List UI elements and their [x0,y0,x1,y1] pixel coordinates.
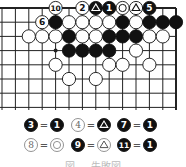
black-stone [49,16,62,29]
black-stone: 1 [144,119,157,132]
white-stone [143,30,156,43]
diagram-caption: 図 ― 失敗図 [0,158,186,167]
black-stone: 5 [143,1,156,14]
legend-item: 4= [72,119,111,132]
white-stone [103,58,116,71]
white-stone [62,72,75,85]
legend-item: 11=1 [118,139,157,152]
black-stone: 7 [118,119,131,132]
star-point [54,49,58,53]
go-board: 102156 [0,0,186,115]
black-stone [116,16,129,29]
black-stone: 3 [25,119,38,132]
move-number: 7 [121,120,127,130]
black-stone: 1 [144,139,157,152]
equals-sign: = [87,120,95,131]
black-stone [62,30,75,43]
black-stone: 11 [118,139,131,152]
white-stone [129,1,142,14]
white-stone [62,16,75,29]
equals-sign: = [133,120,141,131]
equals-sign: = [133,140,141,151]
move-number: 1 [106,3,112,13]
black-stone [156,16,169,29]
black-stone [143,16,156,29]
white-stone [129,16,142,29]
black-stone [89,44,102,57]
move-number: 6 [39,17,45,27]
move-legend: 3=14=7=18=9=11=1 [0,115,186,157]
legend-item: 7=1 [118,119,157,132]
white-stone [156,30,169,43]
legend-item: 3=1 [25,119,64,132]
white-stone [89,30,102,43]
equals-sign: = [40,120,48,131]
black-stone [116,30,129,43]
black-stone [98,119,111,132]
move-number: 2 [79,3,85,13]
move-number: 3 [28,120,34,130]
black-stone: 1 [103,1,116,14]
move-number: 10 [50,4,60,13]
white-stone [22,30,35,43]
white-stone [36,30,49,43]
stones: 102156 [22,1,182,85]
black-stone [129,30,142,43]
svg-text:4: 4 [75,120,81,130]
black-stone [103,30,116,43]
move-number: 1 [147,120,153,130]
white-stone [129,44,142,57]
black-stone [103,44,116,57]
move-number: 11 [119,141,129,150]
svg-text:8: 8 [28,140,34,150]
legend-item: 9= [72,139,111,152]
move-number: 9 [75,140,81,150]
white-stone [143,58,156,71]
black-stone [169,16,182,29]
white-stone [116,1,129,14]
white-stone [116,58,129,71]
move-number: 1 [54,120,60,130]
black-stone [89,1,102,14]
white-stone [76,16,89,29]
equals-sign: = [40,140,48,151]
white-stone [76,30,89,43]
black-stone: 1 [51,119,64,132]
white-stone [89,72,102,85]
black-stone [76,44,89,57]
legend-item: 8= [25,139,64,152]
white-stone: 6 [36,16,49,29]
white-stone [49,30,62,43]
white-stone [89,16,102,29]
white-stone [103,16,116,29]
white-stone: 2 [76,1,89,14]
move-number: 5 [146,3,152,13]
black-stone [62,44,75,57]
black-stone: 9 [72,139,85,152]
white-stone [49,58,62,71]
move-number: 1 [147,140,153,150]
equals-sign: = [87,140,95,151]
white-stone: 10 [49,1,62,14]
